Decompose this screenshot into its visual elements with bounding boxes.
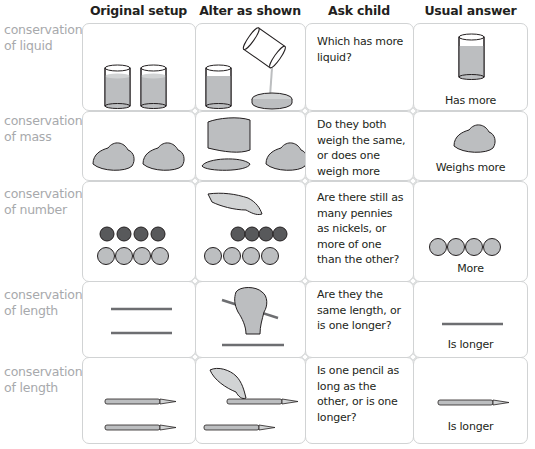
row-label-line2: of length (4, 303, 82, 319)
cell-sticks-original (82, 281, 196, 358)
row-label-line1: conservation (4, 287, 82, 303)
cell-liquid-answer: Has more (413, 23, 528, 111)
answer-text: Weighs more (414, 161, 527, 174)
cell-liquid-original (82, 23, 196, 111)
cell-number-question: Are there still as many pennies as nicke… (305, 181, 414, 282)
answer-text: Is longer (414, 338, 527, 351)
pour-liquid-icon (196, 24, 306, 110)
row-label-number: conservation of number (4, 186, 82, 218)
cell-sticks-answer: Is longer (413, 281, 528, 358)
cell-sticks-question: Are they the same length, or is one long… (305, 281, 414, 358)
header-usual-answer: Usual answer (413, 3, 528, 18)
row-label-line2: of mass (4, 129, 82, 145)
question-text: Are there still as many pennies as nicke… (317, 190, 407, 268)
hand-flattening-clay-icon (196, 112, 306, 180)
question-text: Which has more liquid? (317, 34, 407, 65)
question-text: Is one pencil as long as the other, or i… (317, 363, 407, 425)
cell-mass-altered (195, 111, 306, 181)
row-label-line1: conservation (4, 22, 82, 38)
row-label-line1: conservation (4, 186, 82, 202)
cell-sticks-altered (195, 281, 306, 358)
answer-text: Has more (414, 94, 527, 107)
question-text: Are they the same length, or is one long… (317, 287, 407, 334)
cell-liquid-question: Which has more liquid? (305, 23, 414, 111)
cell-liquid-altered (195, 23, 306, 111)
two-glasses-icon (83, 24, 195, 110)
coins-rows-icon (83, 182, 195, 281)
finger-pushing-coins-icon (196, 182, 306, 281)
finger-sliding-pencil-icon (196, 358, 306, 443)
cell-pencils-question: Is one pencil as long as the other, or i… (305, 357, 414, 444)
two-clay-balls-icon (83, 112, 195, 180)
row-label-liquid: conservation of liquid (4, 22, 82, 54)
cell-mass-question: Do they both weigh the same, or does one… (305, 111, 414, 181)
answer-text: More (414, 262, 527, 275)
header-alter-as-shown: Alter as shown (195, 3, 305, 18)
header-ask-child: Ask child (305, 3, 413, 18)
cell-mass-answer: Weighs more (413, 111, 528, 181)
row-label-mass: conservation of mass (4, 113, 82, 145)
row-label-line2: of length (4, 380, 82, 396)
cell-number-altered (195, 181, 306, 282)
cell-number-original (82, 181, 196, 282)
row-label-line1: conservation (4, 364, 82, 380)
cell-pencils-answer: Is longer (413, 357, 528, 444)
row-label-length-sticks: conservation of length (4, 287, 82, 319)
answer-text: Is longer (414, 420, 527, 433)
cell-mass-original (82, 111, 196, 181)
row-label-line2: of liquid (4, 38, 82, 54)
row-label-line2: of number (4, 202, 82, 218)
cell-pencils-original (82, 357, 196, 444)
header-original-setup: Original setup (82, 3, 195, 18)
two-pencils-icon (83, 358, 195, 443)
cell-pencils-altered (195, 357, 306, 444)
row-label-length-pencils: conservation of length (4, 364, 82, 396)
row-label-line1: conservation (4, 113, 82, 129)
two-sticks-icon (83, 282, 195, 357)
hand-holding-stick-icon (196, 282, 306, 357)
cell-number-answer: More (413, 181, 528, 282)
